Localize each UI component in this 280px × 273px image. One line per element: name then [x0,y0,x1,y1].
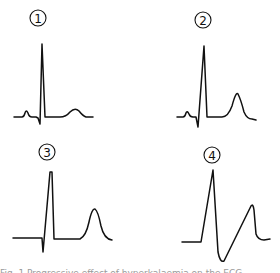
panel-4-label: 4 [208,149,216,163]
panel-3-label: 3 [43,146,51,160]
ecg-trace-4 [182,170,270,261]
panel-1-label: 1 [34,12,42,26]
figure-caption: Fig. 1 Progressive effect of hyperkalaem… [0,267,280,273]
ecg-figure: 1 2 3 4 [0,0,280,273]
ecg-trace-2 [177,46,256,127]
panel-3: 3 [13,144,112,252]
ecg-trace-3 [13,172,112,252]
panel-4: 4 [182,147,270,261]
panel-2: 2 [177,12,256,127]
panel-2-label: 2 [199,14,207,28]
ecg-trace-1 [14,44,93,124]
panel-1: 1 [14,10,93,124]
